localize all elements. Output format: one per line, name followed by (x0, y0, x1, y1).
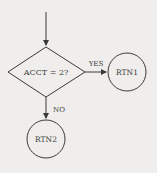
flowchart: ACCT = 2? YES RTN1 NO RTN2 (0, 0, 157, 173)
rtn2-label: RTN2 (35, 135, 57, 144)
yes-label: YES (88, 60, 104, 68)
decision-label: ACCT = 2? (23, 68, 69, 77)
no-label: NO (53, 106, 65, 114)
rtn1-label: RTN1 (116, 68, 138, 77)
